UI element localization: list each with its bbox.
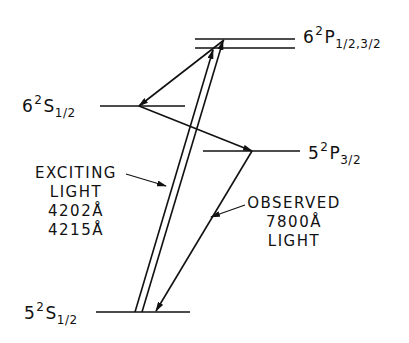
excite-arrow-1 [135,50,213,312]
excite-arrow-2 [142,41,223,312]
decay-5p-5s [156,151,252,311]
observed-light-label: OBSERVED 7800Å LIGHT [244,194,344,251]
label-5p: 52P3/2 [308,140,361,167]
label-5s: 52S1/2 [24,300,78,327]
exciting-light-label: EXCITING LIGHT 4202Å 4215Å [26,164,126,240]
exciting-pointer [126,174,166,186]
decay-6p-6s [139,40,224,106]
label-6s: 62S1/2 [22,93,76,120]
label-6p: 62P1/2,3/2 [303,24,381,51]
decay-6s-5p [139,106,252,151]
